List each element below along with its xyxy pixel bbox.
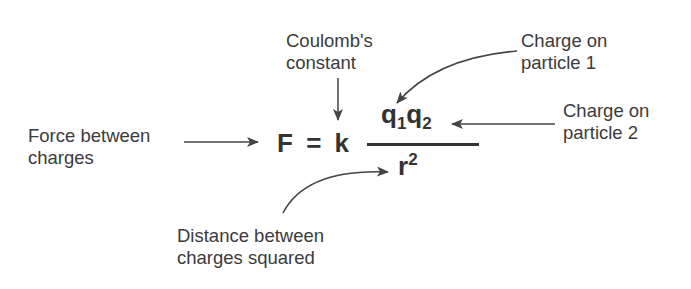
arrow-charge1 [397, 51, 517, 103]
arrows-layer [0, 0, 691, 289]
arrow-distance [283, 172, 388, 213]
coulomb-law-diagram: Force between charges Coulomb's constant… [0, 0, 691, 289]
